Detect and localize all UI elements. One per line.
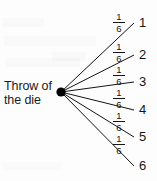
fraction-numerator: 1	[112, 42, 126, 52]
probability-label-5: 16	[112, 111, 126, 132]
fraction-denominator: 6	[112, 145, 126, 155]
fraction-denominator: 6	[112, 23, 126, 33]
probability-label-3: 16	[112, 65, 126, 86]
fraction-numerator: 1	[112, 111, 126, 121]
fraction-denominator: 6	[112, 53, 126, 63]
outcome-label-1: 1	[139, 16, 146, 29]
fraction-numerator: 1	[112, 134, 126, 144]
fraction-numerator: 1	[112, 65, 126, 75]
fraction-denominator: 6	[112, 99, 126, 109]
probability-label-6: 16	[112, 134, 126, 155]
probability-label-1: 16	[112, 12, 126, 33]
fraction-numerator: 1	[112, 88, 126, 98]
probability-label-2: 16	[112, 42, 126, 63]
outcome-label-2: 2	[139, 48, 146, 61]
outcome-label-6: 6	[139, 159, 146, 172]
probability-label-4: 16	[112, 88, 126, 109]
root-label: Throw of the die	[4, 79, 62, 107]
fraction-denominator: 6	[112, 76, 126, 86]
probability-tree-diagram: Throw of the die 161616161616 123456	[0, 0, 157, 181]
outcome-label-3: 3	[139, 75, 146, 88]
outcome-label-5: 5	[139, 130, 146, 143]
root-label-line-1: Throw of	[4, 79, 62, 93]
root-label-line-2: the die	[4, 93, 62, 107]
outcome-label-4: 4	[139, 103, 146, 116]
fraction-numerator: 1	[112, 12, 126, 22]
fraction-denominator: 6	[112, 122, 126, 132]
